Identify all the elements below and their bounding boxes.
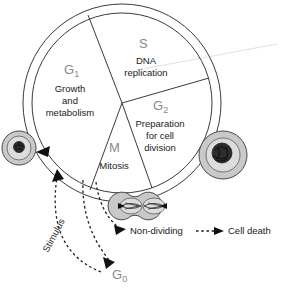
phase-desc-g1-line2: and — [62, 95, 78, 106]
interphase-cell — [2, 131, 36, 165]
phase-label-g2: G2 — [153, 98, 168, 115]
phase-desc-m-line1: Mitosis — [99, 160, 129, 171]
sector-divider-g1-s — [88, 15, 122, 103]
phase-label-g1: G1 — [64, 62, 79, 79]
phase-desc-s-line2: replication — [124, 67, 167, 78]
phase-desc-g2-line1: Preparation — [135, 118, 184, 129]
phase-desc-g2-line3: division — [144, 142, 176, 153]
arrow-to-g0 — [83, 180, 109, 260]
phase-label-s: S — [139, 36, 148, 51]
phase-label-m: M — [109, 140, 120, 155]
phase-desc-s-line1: DNA — [136, 55, 157, 66]
arrowhead-non-dividing — [114, 225, 126, 235]
condensed-chromatin-cell — [199, 131, 247, 179]
phase-desc-g1-line3: metabolism — [46, 107, 95, 118]
arrowhead-stimulus — [52, 169, 64, 182]
label-stimulus: Stimulus — [40, 216, 67, 254]
sector-divider-s-g2 — [122, 78, 209, 103]
dividing-cell — [108, 192, 167, 219]
label-non-dividing: Non-dividing — [130, 225, 183, 236]
phase-desc-g1-line1: Growth — [55, 83, 86, 94]
cell-cycle-canvas: G1 Growth and metabolism S DNA replicati… — [0, 0, 286, 291]
arrowhead-cell-death — [214, 227, 224, 235]
phase-desc-g2-line2: for cell — [146, 130, 174, 141]
label-g0: G0 — [112, 267, 127, 284]
label-cell-death: Cell death — [228, 225, 271, 236]
cell-cycle-diagram: G1 Growth and metabolism S DNA replicati… — [0, 0, 286, 291]
